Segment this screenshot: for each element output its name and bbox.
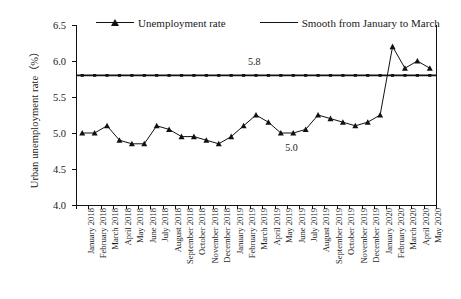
y-tick-label: 5.0 — [53, 128, 66, 139]
series-plot — [76, 25, 436, 205]
x-axis-label: December 2019 — [371, 208, 381, 263]
x-axis-label: June 2019 — [297, 208, 307, 243]
smooth-line-node — [341, 74, 344, 77]
y-tick-label: 5.5 — [53, 92, 66, 103]
smooth-line-node — [304, 74, 307, 77]
x-axis-label: September 2018 — [185, 208, 195, 264]
smooth-line-node — [354, 74, 357, 77]
data-point-marker — [265, 119, 271, 125]
y-tick-label: 4.5 — [53, 164, 66, 175]
smooth-line-node — [217, 74, 220, 77]
smooth-line-node — [428, 74, 431, 77]
data-point-marker — [390, 44, 396, 50]
x-axis-label: February 2018 — [98, 208, 108, 258]
smooth-line-node — [379, 74, 382, 77]
x-axis-label: July 2018 — [160, 208, 170, 242]
y-tick-label: 4.0 — [53, 200, 66, 211]
x-axis-label: November 2018 — [210, 208, 220, 264]
data-point-marker — [104, 123, 110, 129]
x-axis-label: December 2018 — [222, 208, 232, 263]
y-axis-title: Urban unemployment rate（%） — [26, 23, 41, 213]
smooth-line-node — [230, 74, 233, 77]
smooth-line-node — [205, 74, 208, 77]
smooth-line-node — [329, 74, 332, 77]
x-axis-label: August 2019 — [321, 208, 331, 252]
data-point-marker — [365, 119, 371, 125]
smooth-line-node — [292, 74, 295, 77]
smooth-line-node — [403, 74, 406, 77]
smooth-line-node — [391, 74, 394, 77]
x-axis-label: January 2020 — [384, 208, 394, 254]
smooth-line-node — [155, 74, 158, 77]
smooth-line-node — [168, 74, 171, 77]
smooth-line-node — [118, 74, 121, 77]
smooth-line-node — [105, 74, 108, 77]
x-axis-label: March 2019 — [259, 208, 269, 250]
unemployment-rate-chart: Urban unemployment rate（%） Unemployment … — [0, 0, 461, 299]
x-axis-label: February 2019 — [247, 208, 257, 258]
smooth-line-node — [81, 74, 84, 77]
smooth-line-node — [192, 74, 195, 77]
right-axis-line — [436, 25, 437, 205]
x-axis-label: July 2019 — [309, 208, 319, 242]
smooth-line-node — [279, 74, 282, 77]
x-axis-label: April 2020 — [421, 208, 431, 245]
x-axis-label: March 2020 — [408, 208, 418, 250]
data-point-marker — [427, 65, 433, 71]
x-axis-label: October 2019 — [346, 208, 356, 255]
x-axis-label: May 2018 — [135, 208, 145, 243]
x-axis-label: May 2020 — [433, 208, 443, 243]
smooth-line-node — [130, 74, 133, 77]
x-axis-label: April 2019 — [272, 208, 282, 245]
smooth-line-node — [316, 74, 319, 77]
x-axis-label: May 2019 — [284, 208, 294, 243]
x-axis-label: September 2019 — [334, 208, 344, 264]
y-tick-label: 6.0 — [53, 56, 66, 67]
y-tick-label: 6.5 — [53, 20, 66, 31]
data-point-marker — [154, 123, 160, 129]
smooth-line-node — [416, 74, 419, 77]
data-point-marker — [377, 112, 383, 118]
smooth-line-node — [267, 74, 270, 77]
x-axis-label: August 2018 — [173, 208, 183, 252]
data-point-marker — [253, 112, 259, 118]
smooth-line-node — [254, 74, 257, 77]
x-axis-line — [76, 205, 436, 206]
x-axis-label: March 2018 — [110, 208, 120, 250]
x-axis-label: October 2018 — [197, 208, 207, 255]
smooth-line-node — [93, 74, 96, 77]
x-axis-labels: January 2018February 2018March 2018April… — [76, 208, 436, 298]
smooth-line-node — [143, 74, 146, 77]
value-annotation: 5.0 — [285, 142, 298, 153]
smooth-line-node — [242, 74, 245, 77]
smooth-line-node — [180, 74, 183, 77]
x-axis-label: June 2018 — [148, 208, 158, 243]
x-axis-label: January 2018 — [86, 208, 96, 254]
smooth-line-node — [366, 74, 369, 77]
x-axis-label: April 2018 — [123, 208, 133, 245]
data-point-marker — [315, 112, 321, 118]
data-point-marker — [402, 65, 408, 71]
data-point-marker — [414, 58, 420, 64]
plot-area: 6.56.05.55.04.54.0 5.85.0 — [76, 25, 436, 205]
x-axis-label: November 2019 — [359, 208, 369, 264]
value-annotation: 5.8 — [248, 56, 261, 67]
x-axis-label: February 2020 — [396, 208, 406, 258]
x-axis-label: January 2019 — [235, 208, 245, 254]
